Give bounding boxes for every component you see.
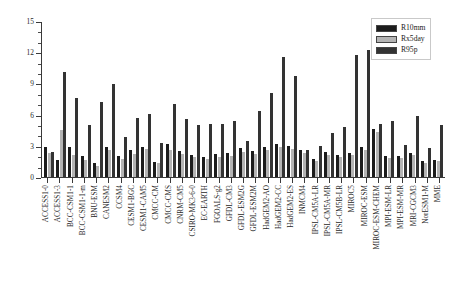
bar	[221, 124, 224, 177]
bar	[148, 114, 151, 177]
x-axis-tick	[145, 178, 146, 183]
x-axis-tick-label: IPSL-CM5A-LR	[313, 185, 320, 234]
x-axis-tick-label: BCC-CSM1-1	[68, 185, 75, 227]
bar-group	[116, 22, 128, 177]
x-axis-tick-label: NorESM1-M	[423, 185, 430, 224]
bar-group	[165, 22, 177, 177]
bar	[416, 116, 419, 177]
bar	[343, 127, 346, 177]
x-axis-tick-label: HadGEM2-ES	[289, 185, 296, 228]
x-axis-tick	[415, 178, 416, 183]
bar	[88, 125, 91, 177]
x-axis-tick	[353, 178, 354, 183]
x-axis-tick-label: EC-EARTH	[203, 185, 210, 221]
x-axis-tick	[133, 178, 134, 183]
x-axis-tick-label: MPI-ESM-MR	[399, 185, 406, 229]
x-axis-tick	[292, 178, 293, 183]
y-axis-tick-label: 9	[30, 81, 34, 88]
x-axis-tick	[402, 178, 403, 183]
x-axis-tick-label: GFDL-ESM2G	[240, 185, 247, 230]
x-axis-tick-label: ACCESS1-3	[56, 185, 63, 222]
y-axis: 03691215	[0, 0, 41, 184]
x-axis-tick	[231, 178, 232, 183]
x-axis-tick	[84, 178, 85, 183]
bar	[258, 111, 261, 177]
x-axis-tick	[96, 178, 97, 183]
bar-group	[238, 22, 250, 177]
x-axis-tick	[72, 178, 73, 183]
bar-group	[262, 22, 274, 177]
bar-group	[323, 22, 335, 177]
x-axis-tick	[255, 178, 256, 183]
x-axis-tick	[427, 178, 428, 183]
bar	[51, 152, 54, 177]
bar	[75, 98, 78, 177]
y-axis-tick-label: 15	[26, 18, 34, 25]
bar-group	[104, 22, 116, 177]
x-axis-tick-label: GFDL-CM3	[227, 185, 234, 221]
bar-group	[43, 22, 55, 177]
legend-label-r10mm: R10mm	[401, 24, 425, 32]
legend-item: Rx5day	[376, 34, 425, 44]
bar-group	[347, 22, 359, 177]
x-axis-tick-label: CSIRO-MK3-6-0	[191, 185, 198, 236]
x-axis-tick-label: HadGEM2-AO	[264, 185, 271, 230]
x-axis-tick	[439, 178, 440, 183]
bar	[112, 84, 115, 177]
x-axis-tick-label: MPI-ESM-LR	[387, 185, 394, 227]
x-axis-tick	[108, 178, 109, 183]
bar	[233, 121, 236, 177]
bar	[160, 143, 163, 177]
bar	[173, 104, 176, 177]
bar-group	[92, 22, 104, 177]
bar	[124, 137, 127, 177]
y-axis-tick-label: 12	[26, 49, 34, 56]
x-axis-tick-label: MIROC-ESM	[362, 185, 369, 226]
bar-group	[213, 22, 225, 177]
x-axis-tick	[304, 178, 305, 183]
bar	[246, 141, 249, 177]
x-axis-tick-label: BNU-ESM	[93, 185, 100, 218]
bar-group	[359, 22, 371, 177]
x-axis-tick	[194, 178, 195, 183]
x-axis-tick-label: MRI-CGCM3	[411, 185, 418, 226]
bar	[391, 121, 394, 177]
bar-group	[225, 22, 237, 177]
x-axis	[41, 178, 445, 184]
bar	[367, 50, 370, 177]
x-axis-tick	[280, 178, 281, 183]
bar-group	[310, 22, 322, 177]
x-axis-tick	[121, 178, 122, 183]
bar	[209, 124, 212, 177]
x-axis-tick-label: CANESM2	[105, 185, 112, 219]
bar	[282, 57, 285, 177]
x-axis-tick	[378, 178, 379, 183]
x-axis-tick	[206, 178, 207, 183]
bar-group	[335, 22, 347, 177]
bar	[319, 146, 322, 177]
x-axis-tick-label: BCC-CSM1-1-m	[80, 185, 87, 235]
bar-group	[274, 22, 286, 177]
bar	[440, 125, 443, 177]
x-axis-tick-label: GFDL-ESM2M	[252, 185, 259, 231]
legend-swatch-rx5day	[376, 36, 397, 43]
bar	[404, 145, 407, 177]
x-axis-tick-label: CMCC-CMS	[166, 185, 173, 224]
x-axis-tick	[219, 178, 220, 183]
bar	[306, 150, 309, 177]
bar	[355, 55, 358, 177]
bar	[379, 124, 382, 177]
x-axis-tick-label: HadGEM2-CC	[276, 185, 283, 229]
bar-group	[79, 22, 91, 177]
x-axis-tick-label: IPSL-CM5A-MR	[325, 185, 332, 236]
x-axis-tick-labels: ACCESS1-0ACCESS1-3BCC-CSM1-1BCC-CSM1-1-m…	[41, 185, 445, 285]
bar	[100, 102, 103, 177]
legend-label-rx5day: Rx5day	[401, 35, 425, 43]
x-axis-tick	[329, 178, 330, 183]
bar	[331, 133, 334, 177]
x-axis-tick-label: MME	[436, 185, 443, 202]
bar	[185, 119, 188, 177]
x-axis-tick	[390, 178, 391, 183]
y-axis-tick-label: 0	[30, 174, 34, 181]
x-axis-tick-label: CCSM4	[117, 185, 124, 209]
